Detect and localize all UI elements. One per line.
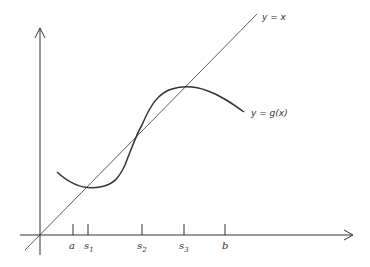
tick-label-s3: s3 [179,240,189,254]
tick-label-s2: s2 [137,240,147,254]
tick-label-b: b [222,240,228,251]
tick-label-s1: s1 [84,240,94,254]
g-curve [57,87,244,188]
tick-label-a: a [69,240,75,251]
g-curve-label: y = g(x) [250,108,288,118]
fixed-point-diagram: a s1 s2 s3 b y = x y = g(x) [0,0,370,267]
identity-line [25,14,257,250]
identity-line-label: y = x [261,12,287,22]
